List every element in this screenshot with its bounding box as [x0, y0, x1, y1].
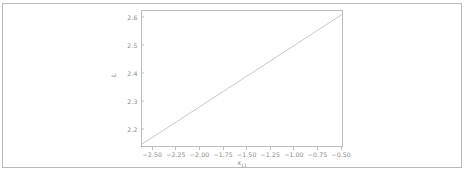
x-tick-label: −2.00	[190, 152, 209, 158]
y-tick-mark	[141, 72, 144, 73]
y-tick-mark	[141, 128, 144, 129]
x-tick-mark	[223, 147, 224, 150]
x-tick-mark	[293, 147, 294, 150]
x-tick-mark	[341, 147, 342, 150]
x-tick-label: −1.00	[284, 152, 303, 158]
y-tick-mark	[141, 100, 144, 101]
x-tick-label: −1.50	[237, 152, 256, 158]
x-axis-title-subscript: 11	[241, 163, 247, 168]
x-tick-mark	[152, 147, 153, 150]
x-tick-mark	[175, 147, 176, 150]
x-tick-label: −1.25	[261, 152, 280, 158]
y-tick-label: 2.4	[127, 70, 141, 76]
y-tick-label: 2.5	[127, 42, 141, 48]
plot-axes-box	[141, 10, 343, 147]
x-tick-label: −2.25	[166, 152, 185, 158]
y-tick-label: 2.6	[127, 14, 141, 20]
x-tick-label: −0.50	[331, 152, 350, 158]
x-tick-mark	[246, 147, 247, 150]
y-tick-label: 2.2	[127, 126, 141, 132]
y-axis-title: L	[111, 73, 117, 77]
y-tick-mark	[141, 16, 144, 17]
x-tick-label: −1.75	[213, 152, 232, 158]
x-tick-mark	[270, 147, 271, 150]
plot-line-svg	[142, 11, 342, 146]
x-tick-label: −0.75	[308, 152, 327, 158]
figure-root: 2.22.32.42.52.6 −2.50−2.25−2.00−1.75−1.5…	[0, 0, 466, 176]
y-tick-mark	[141, 44, 144, 45]
x-axis-title: x11	[141, 160, 343, 169]
data-series-line	[142, 14, 342, 144]
x-tick-label: −2.50	[143, 152, 162, 158]
x-tick-mark	[317, 147, 318, 150]
y-tick-label: 2.3	[127, 98, 141, 104]
x-tick-mark	[199, 147, 200, 150]
